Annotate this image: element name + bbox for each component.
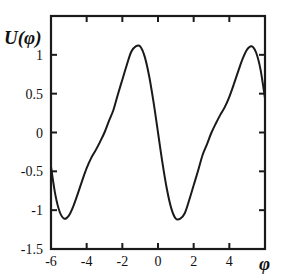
- x-axis-ticks: -6-4-2024: [45, 16, 233, 269]
- x-tick-label: -4: [81, 254, 93, 269]
- curve-line: [51, 45, 265, 219]
- y-tick-label: 1: [36, 48, 43, 63]
- x-tick-label: 4: [226, 254, 233, 269]
- x-tick-label: 2: [190, 254, 197, 269]
- x-axis-label: φ: [259, 253, 270, 274]
- x-tick-label: -2: [116, 254, 128, 269]
- x-tick-label: -6: [45, 254, 57, 269]
- data-series: [51, 45, 265, 219]
- y-tick-label: 0: [36, 126, 43, 141]
- y-tick-label: -1: [31, 203, 43, 218]
- y-axis-label: U(φ): [4, 27, 42, 49]
- y-axis-ticks: -1.5-1-0.500.51: [21, 48, 265, 257]
- x-tick-label: 0: [155, 254, 162, 269]
- y-tick-label: 0.5: [26, 87, 44, 102]
- chart: -6-4-2024 -1.5-1-0.500.51 U(φ) φ: [0, 0, 287, 280]
- y-tick-label: -1.5: [21, 242, 43, 257]
- y-tick-label: -0.5: [21, 164, 43, 179]
